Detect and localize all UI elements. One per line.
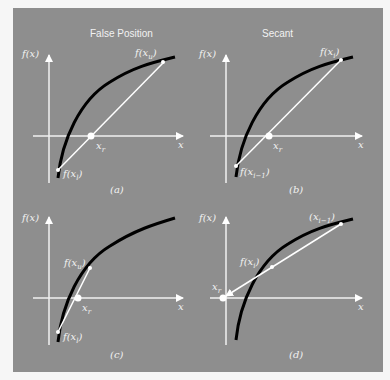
y-axis-label: f(x) [198, 212, 216, 223]
x-axis-label: x [178, 301, 184, 312]
secant-line [236, 60, 341, 166]
panel-caption: (d) [289, 349, 303, 360]
panel-b-title: Secant [262, 28, 293, 39]
panel-caption: (a) [110, 184, 124, 195]
function-curve [58, 218, 175, 342]
y-axis-label: f(x) [21, 48, 39, 59]
root-label: xr [96, 140, 106, 154]
root-label: xr [212, 281, 222, 295]
x-axis-label: x [178, 139, 184, 150]
current-point [339, 58, 343, 62]
function-curve [236, 57, 353, 177]
false-position-line [58, 62, 164, 170]
function-curve [58, 57, 175, 178]
root-label: xr [273, 140, 283, 154]
upper-label: f(xu) [134, 47, 157, 61]
lower-point [56, 168, 60, 172]
upper-point [88, 266, 92, 270]
lower-point [56, 330, 60, 334]
root-point [220, 295, 227, 302]
previous-label: (xi−1) [309, 211, 335, 225]
root-point [266, 133, 273, 140]
lower-label: f(xl) [62, 168, 83, 182]
false-position-line [58, 268, 90, 332]
current-point [270, 265, 274, 269]
upper-point [161, 60, 165, 64]
current-label: f(xi) [319, 46, 340, 60]
root-point [75, 295, 82, 302]
root-point [88, 133, 95, 140]
current-label: f(xi) [239, 256, 260, 270]
panel-a: False Position f(x) x xr f(xu) f(xl) (a) [21, 28, 184, 195]
root-label: xr [82, 302, 92, 316]
comparison-figure: False Position f(x) x xr f(xu) f(xl) (a)… [0, 0, 390, 380]
y-axis-label: f(x) [198, 48, 216, 59]
lower-label: f(xl) [62, 331, 83, 345]
previous-point [339, 222, 343, 226]
previous-point [234, 164, 238, 168]
x-axis-label: x [358, 139, 364, 150]
panel-caption: (b) [289, 184, 303, 195]
y-axis-label: f(x) [21, 212, 39, 223]
previous-label: f(xi−1) [239, 166, 270, 180]
panel-c: f(x) x xr f(xu) f(xl) (c) [21, 212, 184, 360]
x-axis-label: x [358, 301, 364, 312]
panel-b: Secant f(x) x xr f(xi) f(xi−1) (b) [198, 28, 364, 195]
panel-d: f(x) x xr (xi−1) f(xi) (d) [198, 211, 364, 360]
upper-label: f(xu) [63, 257, 86, 271]
panel-a-title: False Position [90, 28, 153, 39]
panel-caption: (c) [110, 349, 124, 360]
